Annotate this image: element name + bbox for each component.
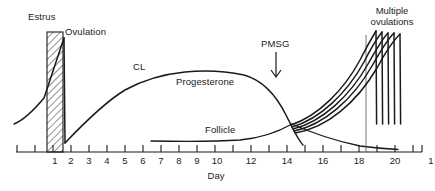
tick-label-14: 14	[282, 156, 293, 166]
tick-label-3: 3	[86, 156, 91, 166]
tick-label-12: 12	[246, 156, 257, 166]
x-axis-title: Day	[208, 170, 225, 181]
follicle-tail	[292, 124, 398, 150]
tick-label-10: 10	[212, 156, 223, 166]
label-cl: CL	[133, 61, 145, 72]
tick-label-7: 7	[158, 156, 163, 166]
tick-label-20: 20	[390, 156, 401, 166]
label-multiple-ovulations-line1: Multiple	[376, 5, 409, 16]
label-multiple-ovulations-line2: ovulations	[371, 16, 414, 27]
tick-label-2: 2	[68, 156, 73, 166]
figure-root: Estrus Ovulation CL Progesterone PMSG Fo…	[0, 0, 435, 191]
tick-label-next-cycle-1: 1	[428, 156, 433, 166]
tick-label-8: 8	[176, 156, 181, 166]
tick-label-16: 16	[318, 156, 329, 166]
tick-label-9: 9	[194, 156, 199, 166]
label-pmsg: PMSG	[261, 38, 289, 49]
label-ovulation: Ovulation	[65, 26, 106, 37]
pmsg-arrow-icon	[271, 52, 281, 77]
label-estrus: Estrus	[28, 11, 56, 22]
tick-label-5: 5	[122, 156, 127, 166]
tick-label-6: 6	[140, 156, 145, 166]
tick-label-1: 1	[52, 156, 57, 166]
label-follicle: Follicle	[205, 124, 235, 135]
multiple-ovulation-waves	[291, 31, 401, 133]
label-progesterone: Progesterone	[176, 76, 234, 87]
tick-label-18: 18	[354, 156, 365, 166]
tick-label-4: 4	[104, 156, 109, 166]
